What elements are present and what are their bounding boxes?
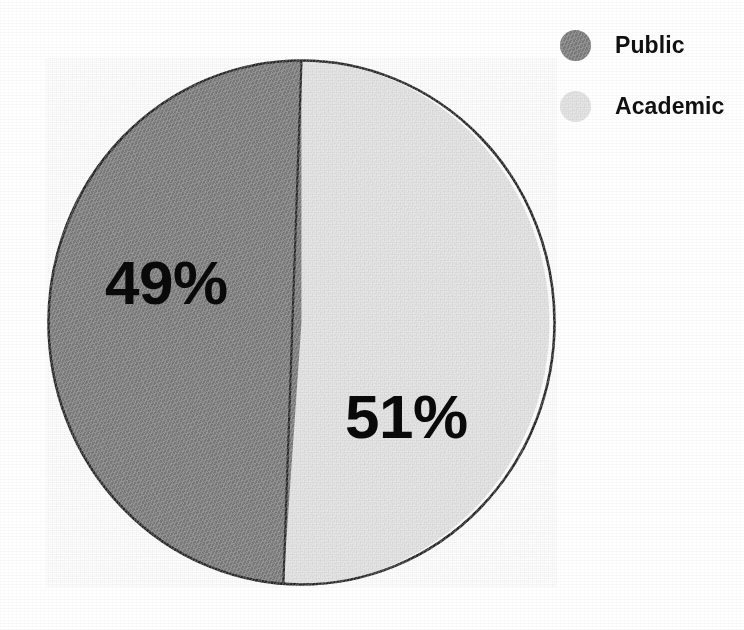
pie-slice-public[interactable] (46, 60, 301, 584)
chart-legend: Public Academic (560, 24, 740, 146)
legend-swatch-grain-public (560, 30, 591, 61)
pie-label-public: 49% (105, 252, 228, 314)
legend-swatch-highlight-academic (560, 91, 591, 122)
pie-graphic (46, 58, 557, 587)
legend-item-public[interactable]: Public (560, 24, 740, 66)
pie-label-academic: 51% (345, 386, 468, 448)
pie-chart-figure: 49% 51% Public Academic (0, 0, 744, 630)
pie-svg (46, 58, 557, 587)
legend-label-public: Public (615, 32, 685, 59)
legend-label-academic: Academic (615, 93, 724, 120)
legend-swatch-academic-icon (560, 91, 591, 122)
legend-swatch-grain-academic (560, 91, 591, 122)
legend-swatch-highlight-public (560, 30, 591, 61)
pie-slice-academic[interactable] (283, 61, 549, 585)
legend-item-academic[interactable]: Academic (560, 85, 740, 127)
legend-swatch-public-icon (560, 30, 591, 61)
